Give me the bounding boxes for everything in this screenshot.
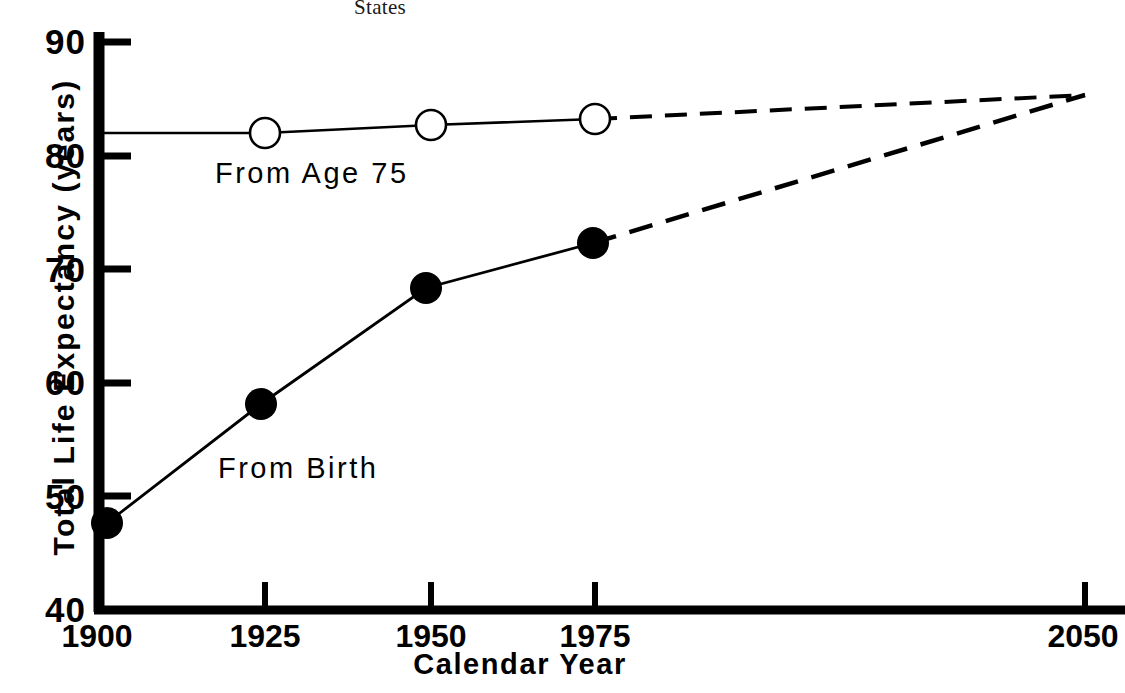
data-point-from-birth-1900 [91,507,123,539]
data-point-from-age-75-1950 [416,110,446,140]
series-line-from-age-75 [104,119,595,133]
plot-area [0,0,1125,693]
series-line-from-birth [107,243,593,523]
data-point-from-age-75-1925 [250,118,280,148]
data-point-from-birth-1925 [245,388,277,420]
data-point-from-birth-1950 [410,272,442,304]
life-expectancy-chart: States Total Life Expectancy (years) Cal… [0,0,1125,693]
data-point-from-birth-1975 [577,227,609,259]
data-point-from-age-75-1975 [580,104,610,134]
